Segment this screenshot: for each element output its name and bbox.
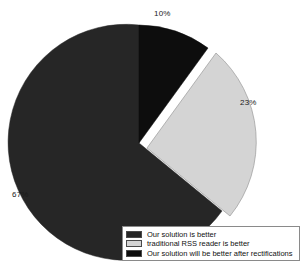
pie-chart: 10% 23% 67% Our solution is better tradi… — [0, 0, 305, 273]
legend-item-2[interactable]: Our solution will be better after rectif… — [126, 249, 296, 258]
slice-label-10: 10% — [154, 9, 171, 18]
legend-label: Our solution is better — [147, 230, 216, 239]
legend-swatch-icon — [126, 250, 142, 257]
legend-item-0[interactable]: Our solution is better — [126, 230, 296, 239]
legend-label: traditional RSS reader is better — [147, 239, 250, 248]
legend-swatch-icon — [126, 231, 142, 238]
legend-label: Our solution will be better after rectif… — [147, 249, 292, 258]
slice-label-67: 67% — [12, 190, 29, 199]
legend-item-1[interactable]: traditional RSS reader is better — [126, 239, 296, 248]
slice-label-23: 23% — [240, 98, 257, 107]
chart-legend: Our solution is better traditional RSS r… — [122, 226, 300, 261]
legend-swatch-icon — [126, 240, 142, 247]
